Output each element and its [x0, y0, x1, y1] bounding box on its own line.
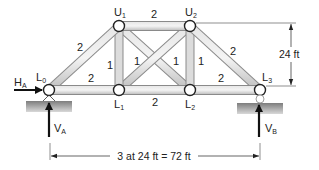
member-label-U2L2: 1 — [198, 55, 204, 67]
joint-L1 — [114, 85, 125, 96]
node-label-L1: L1 — [114, 98, 124, 111]
joint-L3 — [255, 85, 266, 96]
member-L0-U1-fill — [49, 26, 119, 90]
label-HA: HA — [14, 76, 27, 89]
span-dimension-label: 3 at 24 ft = 72 ft — [117, 150, 190, 162]
node-label-L2: L2 — [185, 98, 195, 111]
member-label-U1L1: 1 — [107, 59, 113, 71]
joint-L0 — [44, 85, 55, 96]
member-bottom-chord — [49, 86, 260, 95]
joint-L2 — [185, 85, 196, 96]
height-dimension-label: 24 ft — [279, 48, 300, 60]
member-label-U1U2: 2 — [151, 8, 157, 20]
span-dimension: 3 at 24 ft = 72 ft — [50, 143, 260, 162]
truss-diagram: HA VA VB L0 L1 L2 L3 U1 U2 2 2 2 2 2 2 1… — [0, 0, 319, 170]
truss-members — [49, 22, 260, 95]
member-label-U1L2: 1 — [173, 55, 179, 67]
node-label-U2: U2 — [185, 6, 197, 19]
member-label-L1L2: 2 — [152, 96, 158, 108]
node-label-U1: U1 — [114, 6, 126, 19]
roller-icon — [256, 95, 264, 103]
member-label-L0U1: 2 — [77, 41, 83, 53]
label-VB: VB — [265, 122, 277, 135]
label-VA: VA — [54, 122, 66, 135]
node-label-L0: L0 — [36, 71, 46, 84]
member-label-L1U2: 1 — [134, 55, 140, 67]
member-label-U2L3: 2 — [230, 45, 236, 57]
member-U1-U2 — [119, 22, 190, 31]
member-label-L2L3: 2 — [218, 72, 224, 84]
joint-U1 — [114, 21, 125, 32]
member-label-L0L1: 2 — [88, 72, 94, 84]
pin-support-leg-right — [49, 95, 55, 101]
joint-U2 — [185, 21, 196, 32]
node-label-L3: L3 — [262, 71, 272, 84]
pin-support-leg-left — [43, 95, 49, 101]
